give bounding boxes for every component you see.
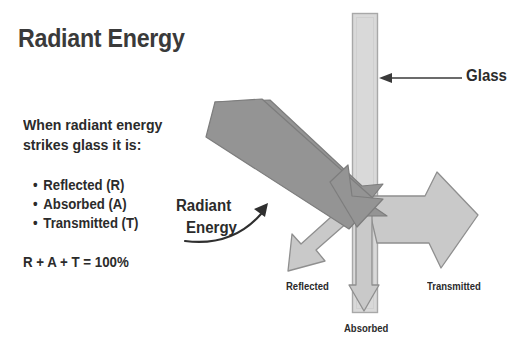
diagram-canvas: Radiant Energy When radiant energy strik… [0,0,516,347]
bullet-label: Absorbed (A) [43,196,126,212]
bullet-item-absorbed: •Absorbed (A) [33,196,127,212]
page-title: Radiant Energy [18,24,185,53]
intro-text-line-2: strikes glass it is: [23,136,141,153]
radiant-energy-label-line-2: Energy [186,219,237,237]
glass-callout-arrowhead-icon [379,73,392,83]
glass-callout-label: Glass [466,67,507,85]
bullet-dot-icon: • [33,177,43,193]
bullet-label: Reflected (R) [43,177,124,193]
reflected-beam-label: Reflected [286,281,329,292]
intro-text-line-1: When radiant energy [23,116,162,133]
transmitted-beam-label: Transmitted [427,281,481,292]
transmitted-beam-arrow [366,172,478,268]
equation-text: R + A + T = 100% [23,254,129,270]
radiant-energy-label-line-1: Radiant [176,197,231,215]
bullet-item-reflected: •Reflected (R) [33,177,125,193]
bullet-dot-icon: • [33,196,43,212]
bullet-dot-icon: • [33,215,43,231]
bullet-label: Transmitted (T) [43,215,138,231]
absorbed-beam-label: Absorbed [344,323,388,334]
bullet-item-transmitted: •Transmitted (T) [33,215,138,231]
